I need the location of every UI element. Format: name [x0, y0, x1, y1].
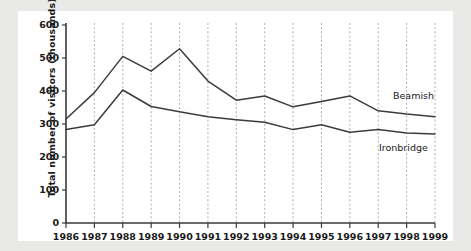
y-tick-label: 600 — [39, 19, 59, 30]
line-chart: 0100200300400500600 19861987198819891990… — [18, 11, 453, 241]
x-tick-label: 1995 — [308, 231, 334, 241]
y-tick-label: 100 — [39, 184, 59, 195]
x-tick-label: 1987 — [81, 231, 107, 241]
y-tick-label: 300 — [39, 118, 59, 129]
axis-lines-path — [66, 23, 435, 223]
x-tick-label: 1988 — [110, 231, 137, 241]
x-tick-label: 1999 — [422, 231, 448, 241]
series-line-ironbridge — [66, 90, 435, 134]
x-tick-label: 1989 — [138, 231, 164, 241]
data-series — [66, 49, 435, 134]
y-tick-label: 500 — [39, 52, 59, 63]
x-tick-label: 1996 — [337, 231, 364, 241]
x-tick-labels: 1986198719881989199019911992199319941995… — [53, 231, 448, 241]
x-tick-label: 1986 — [53, 231, 80, 241]
x-tick-label: 1993 — [251, 231, 277, 241]
y-tick-labels: 0100200300400500600 — [39, 19, 59, 228]
x-tick-label: 1990 — [166, 231, 193, 241]
y-tick-label: 200 — [39, 151, 59, 162]
series-label-ironbridge: Ironbridge — [379, 142, 428, 153]
plot-card: Total number of visitors (thousands) 010… — [18, 11, 453, 241]
x-tick-label: 1997 — [365, 231, 391, 241]
x-tick-label: 1994 — [280, 231, 307, 241]
axis-lines — [62, 23, 435, 228]
series-label-beamish: Beamish — [393, 90, 434, 101]
y-tick-label: 0 — [52, 217, 59, 228]
x-tick-label: 1991 — [195, 231, 221, 241]
x-tick-label: 1992 — [223, 231, 249, 241]
y-tick-label: 400 — [39, 85, 59, 96]
chart-figure: Total number of visitors (thousands) 010… — [0, 0, 471, 251]
series-line-beamish — [66, 49, 435, 119]
x-tick-label: 1998 — [393, 231, 420, 241]
